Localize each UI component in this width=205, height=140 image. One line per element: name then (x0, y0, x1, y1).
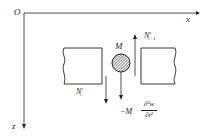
right-force-label: Nsi+1 (144, 32, 156, 40)
point-mass (112, 54, 130, 72)
left-force-label: Nsi (76, 88, 82, 96)
inertia-prefix: −M (120, 108, 132, 116)
z-axis (22, 13, 26, 129)
left-beam (63, 48, 102, 84)
origin-label: O (14, 8, 21, 17)
right-force-subscript: i+1 (148, 36, 155, 41)
left-force-arrow (104, 76, 108, 104)
inertia-numerator: ∂²w (140, 101, 158, 108)
inertia-denominator: ∂t² (140, 112, 158, 119)
inertia-force-arrow (119, 72, 123, 100)
diagram-canvas (0, 0, 205, 140)
z-axis-label: z (12, 122, 16, 131)
right-force-arrow (133, 34, 137, 76)
mass-label: M (115, 42, 123, 51)
left-force-subscript: i (80, 92, 81, 97)
right-beam (141, 48, 176, 84)
x-axis (24, 11, 200, 15)
x-axis-label: x (186, 15, 190, 24)
